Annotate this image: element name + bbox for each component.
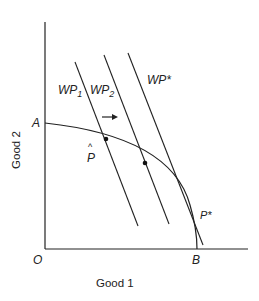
- point-label-p-hat: P: [87, 151, 95, 165]
- line-label-wp1: WP1: [58, 83, 82, 99]
- x-axis-label: Good 1: [96, 277, 134, 289]
- point-label-b: B: [192, 253, 200, 267]
- line-label-wp2: WP2: [90, 83, 114, 99]
- wp2-tangency-point: [143, 161, 148, 166]
- p-hat-point: [104, 137, 109, 142]
- y-axis-label: Good 2: [10, 131, 22, 169]
- production-possibility-diagram: WP1 WP2 WP* A ^ P P* B O Good 1 Good 2: [0, 0, 259, 301]
- origin-label: O: [33, 253, 42, 267]
- line-label-wp-star: WP*: [147, 73, 171, 87]
- point-label-a: A: [31, 116, 40, 130]
- point-label-p-star: P*: [200, 209, 212, 221]
- shift-arrow-icon: [102, 114, 118, 120]
- ppf-curve: [45, 123, 197, 249]
